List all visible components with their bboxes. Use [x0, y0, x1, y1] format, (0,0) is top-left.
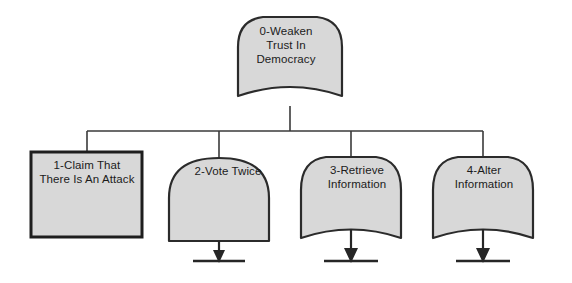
diagram-canvas	[0, 0, 572, 283]
node-2-shape[interactable]	[169, 158, 269, 241]
node-4-shape[interactable]	[433, 157, 533, 238]
node-3-shape[interactable]	[301, 157, 401, 238]
node-root-shape[interactable]	[238, 17, 342, 96]
node-1-shape[interactable]	[31, 152, 142, 237]
attack-tree-diagram: 0-Weaken Trust In Democracy 1-Claim That…	[0, 0, 572, 283]
